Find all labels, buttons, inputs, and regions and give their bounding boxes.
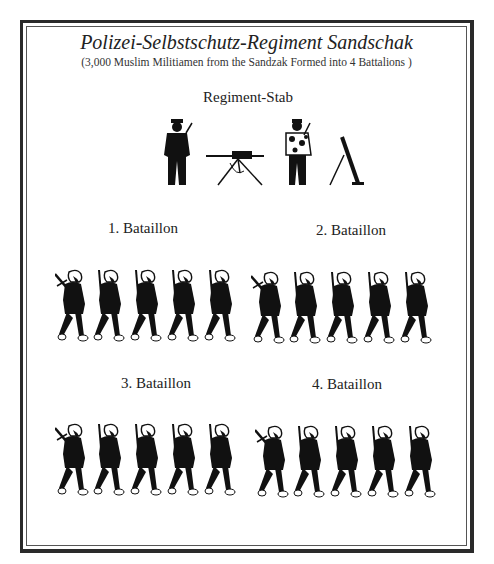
marching-soldier-icon <box>324 268 362 348</box>
camouflaged-soldier-icon <box>280 117 316 189</box>
marching-soldier-icon <box>165 266 203 346</box>
marching-soldier-icon <box>361 268 399 348</box>
marching-soldier-icon <box>202 266 240 346</box>
marching-soldier-icon <box>328 422 366 502</box>
battalion-4-soldiers <box>255 422 439 502</box>
marching-soldier-icon <box>291 422 329 502</box>
marching-soldier-icon <box>365 422 403 502</box>
marching-soldier-icon <box>55 266 93 346</box>
marching-soldier-icon <box>287 268 325 348</box>
battalion-4-label: 4. Bataillon <box>312 376 382 393</box>
diagram-title: Polizei-Selbstschutz-Regiment Sandschak <box>23 31 470 54</box>
marching-soldier-icon <box>55 420 93 500</box>
marching-soldier-icon <box>91 420 129 500</box>
marching-soldier-icon <box>128 266 166 346</box>
marching-soldier-icon <box>251 268 289 348</box>
battalion-3-label: 3. Bataillon <box>121 375 191 392</box>
battalion-1-soldiers <box>55 266 239 346</box>
diagram-frame: Polizei-Selbstschutz-Regiment Sandschak … <box>20 20 474 553</box>
marching-soldier-icon <box>255 422 293 502</box>
marching-soldier-icon <box>398 268 436 348</box>
marching-soldier-icon <box>202 420 240 500</box>
machine-gun-icon <box>204 149 266 189</box>
marching-soldier-icon <box>91 266 129 346</box>
battalion-2-soldiers <box>251 268 435 348</box>
battalion-1-label: 1. Bataillon <box>108 220 178 237</box>
battalion-3-soldiers <box>55 420 239 500</box>
battalion-2-label: 2. Bataillon <box>316 222 386 239</box>
marching-soldier-icon <box>165 420 203 500</box>
marching-soldier-icon <box>402 422 440 502</box>
officer-silhouette-icon <box>160 117 196 189</box>
diagram-subtitle: (3,000 Muslim Militiamen from the Sandza… <box>23 56 470 68</box>
hq-figures <box>160 117 364 189</box>
hq-label: Regiment-Stab <box>203 89 293 106</box>
mortar-icon <box>324 133 364 189</box>
marching-soldier-icon <box>128 420 166 500</box>
